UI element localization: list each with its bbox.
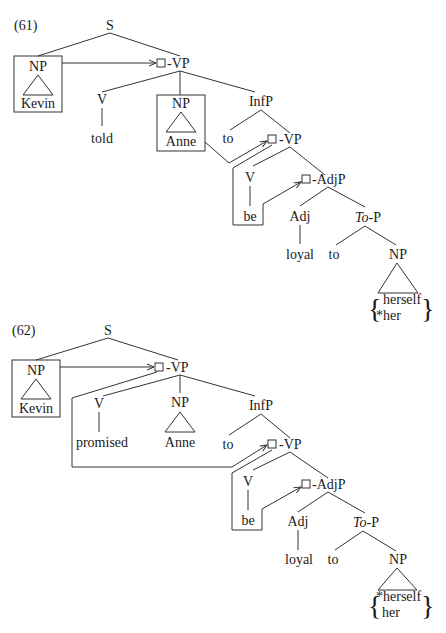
triangle-icon xyxy=(166,112,196,132)
adj-word: loyal xyxy=(286,247,314,262)
p-to: to xyxy=(329,247,340,262)
node-subject-np: NP xyxy=(27,363,45,378)
option-herself: *herself xyxy=(376,589,421,604)
object-word: Anne xyxy=(165,435,195,450)
option-her: her xyxy=(382,605,400,620)
node-subject-np: NP xyxy=(29,59,47,74)
empty-subject-square xyxy=(302,175,310,183)
node-object-np: NP xyxy=(171,395,189,410)
node-adj: Adj xyxy=(290,209,311,224)
node-adj: Adj xyxy=(288,514,309,529)
be-word: be xyxy=(243,209,256,224)
empty-subject-square xyxy=(155,363,163,371)
subject-word: Kevin xyxy=(21,96,55,111)
node-inner-v: V xyxy=(245,170,255,185)
node-infp: InfP xyxy=(249,94,273,109)
node-inner-vp: -VP xyxy=(279,132,302,147)
node-s: S xyxy=(106,18,114,33)
be-word: be xyxy=(241,513,254,528)
node-np: NP xyxy=(389,247,407,262)
node-adjp: -AdjP xyxy=(312,477,346,492)
p-to: to xyxy=(328,552,339,567)
example-number: (62) xyxy=(12,323,36,339)
syntax-tree-diagram: (61) S NP Kevin -VP V told NP Anne InfP … xyxy=(0,0,446,633)
triangle-icon xyxy=(23,75,53,95)
empty-subject-square xyxy=(268,440,276,448)
verb-word: promised xyxy=(76,435,128,450)
empty-subject-square xyxy=(268,135,276,143)
triangle-icon xyxy=(21,379,51,399)
node-s: S xyxy=(104,323,112,338)
triangle-icon xyxy=(378,263,418,293)
triangle-icon xyxy=(378,568,417,590)
example-number: (61) xyxy=(14,18,38,34)
verb-word: told xyxy=(91,131,113,146)
node-top: To-P xyxy=(353,515,379,530)
node-v: V xyxy=(94,396,104,411)
node-inner-vp: -VP xyxy=(279,437,302,452)
adj-word: loyal xyxy=(285,552,313,567)
right-brace-icon: } xyxy=(421,590,434,621)
option-her: *her xyxy=(376,308,401,323)
inf-to: to xyxy=(223,437,234,452)
empty-subject-square xyxy=(302,480,310,488)
node-v: V xyxy=(97,92,107,107)
object-word: Anne xyxy=(166,134,196,149)
node-object-np: NP xyxy=(172,96,190,111)
triangle-icon xyxy=(165,412,195,432)
node-vp: -VP xyxy=(167,56,190,71)
node-np: NP xyxy=(389,552,407,567)
right-brace-icon: } xyxy=(421,293,434,324)
node-top: To-P xyxy=(355,210,381,225)
tree-61: (61) S NP Kevin -VP V told NP Anne InfP … xyxy=(14,18,434,324)
node-vp: -VP xyxy=(166,360,189,375)
tree-62: (62) S NP Kevin -VP V promised NP Anne I… xyxy=(12,323,434,621)
empty-subject-square xyxy=(157,59,165,67)
node-adjp: -AdjP xyxy=(312,172,346,187)
node-infp: InfP xyxy=(249,398,273,413)
node-inner-v: V xyxy=(243,474,253,489)
option-herself: herself xyxy=(383,292,421,307)
inf-to: to xyxy=(223,131,234,146)
subject-word: Kevin xyxy=(19,401,53,416)
